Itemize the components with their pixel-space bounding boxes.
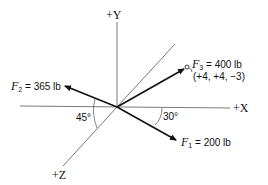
angle-arc-30: [155, 108, 162, 125]
f2-arrow: [65, 86, 117, 107]
x-axis: [20, 106, 230, 108]
f1-label: F1 = 200 lb: [181, 136, 231, 149]
f3-label: F3 = 400 lb: [192, 58, 242, 71]
angle-45-label: 45°: [76, 113, 91, 123]
angle-arc-45: [93, 99, 97, 128]
f3-coords: (+4, +4, −3): [193, 72, 245, 82]
f3-point-icon: [185, 65, 189, 69]
angle-30-label: 30°: [163, 112, 178, 122]
y-axis-label: +Y: [106, 9, 121, 21]
f3-arrow: [117, 69, 184, 107]
diagonal-reference-line: [117, 44, 175, 107]
z-axis-label: +Z: [52, 169, 66, 181]
f2-label: F2 = 365 lb: [11, 80, 61, 93]
x-axis-label: +X: [233, 102, 248, 114]
